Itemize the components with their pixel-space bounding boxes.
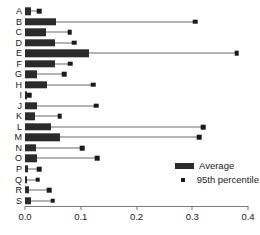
chart-row: C [25,27,248,38]
average-bar [25,29,46,36]
average-bar [25,144,36,151]
percentile-marker [67,30,72,35]
chart-row: B [25,17,248,28]
average-bar [25,165,28,172]
chart-row: A [25,6,248,17]
percentile-marker [235,51,240,56]
average-bar [25,71,37,78]
percentile-marker [91,83,96,88]
legend-label-average: Average [199,161,234,171]
y-axis-label-o: O [15,154,22,163]
chart-row: I [25,90,248,101]
chart-row: L [25,122,248,133]
percentile-marker [27,93,32,98]
average-bar [25,123,51,130]
average-bar [25,81,47,88]
average-bar [25,113,35,120]
y-axis-label-p: P [16,164,22,173]
x-axis-tick [136,206,137,210]
average-bar [25,8,31,15]
average-bar [25,60,55,67]
y-axis-label-s: S [16,196,22,205]
y-axis-label-e: E [16,49,22,58]
y-axis-label-a: A [16,7,22,16]
y-axis-label-g: G [15,70,22,79]
percentile-marker [201,125,206,130]
percentile-marker [51,198,56,203]
chart-row: G [25,69,248,80]
x-axis-tick [192,206,193,210]
y-axis-label-j: J [18,101,23,110]
percentile-marker [197,135,202,140]
percentile-marker [80,146,85,151]
legend-bar-swatch-icon [173,163,195,169]
percentile-marker [37,9,42,14]
y-axis-label-n: N [16,143,23,152]
legend-item-percentile: 95th percentile [173,174,259,186]
whisker-line [25,126,203,127]
average-bar [25,176,27,183]
chart-row: J [25,101,248,112]
x-axis-tick-label: 0.4 [241,212,254,222]
legend-label-percentile: 95th percentile [197,175,259,185]
average-bar [25,102,37,109]
y-axis-label-h: H [16,80,23,89]
average-bar [25,39,55,46]
y-axis-label-r: R [16,186,23,195]
average-bar [25,134,60,141]
y-axis-label-b: B [16,17,22,26]
y-axis-label-i: I [19,91,22,100]
x-axis-tick [248,206,249,210]
legend-square-marker-icon [173,178,193,183]
percentile-marker [94,104,99,109]
x-axis-tick-label: 0.0 [18,212,31,222]
chart-row: D [25,38,248,49]
percentile-marker [193,19,198,24]
percentile-marker [47,188,52,193]
x-axis-tick-label: 0.3 [186,212,199,222]
average-bar [25,186,29,193]
y-axis-label-q: Q [15,175,22,184]
chart-row: M [25,132,248,143]
percentile-marker [57,114,62,119]
average-bar [25,155,37,162]
x-axis-line: 0.00.10.20.30.4 [25,206,248,207]
x-axis-tick [80,206,81,210]
y-axis-label-m: M [15,133,23,142]
y-axis-label-k: K [16,112,22,121]
percentile-marker [68,62,73,67]
x-axis-tick-label: 0.2 [130,212,143,222]
percentile-marker [95,156,100,161]
legend-item-average: Average [173,160,259,172]
chart-row: F [25,59,248,70]
percentile-marker [72,41,77,46]
chart-row: E [25,48,248,59]
y-axis-label-l: L [17,122,22,131]
y-axis-label-c: C [16,28,23,37]
chart-container: ABCDEFGHIJKLMNOPQRS 0.00.10.20.30.4 Aver… [0,0,260,235]
x-axis-tick-label: 0.1 [74,212,87,222]
average-bar [25,18,56,25]
x-axis-tick [25,206,26,210]
chart-row: K [25,111,248,122]
percentile-marker [37,167,42,172]
percentile-marker [62,72,67,77]
average-bar [25,50,89,57]
chart-row: S [25,195,248,206]
y-axis-label-f: F [17,59,23,68]
chart-row: N [25,143,248,154]
average-bar [25,197,31,204]
percentile-marker [36,177,41,182]
chart-legend: Average 95th percentile [173,160,259,188]
y-axis-label-d: D [16,38,23,47]
chart-row: H [25,80,248,91]
